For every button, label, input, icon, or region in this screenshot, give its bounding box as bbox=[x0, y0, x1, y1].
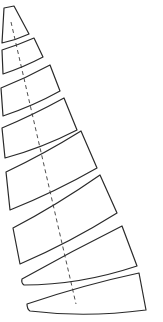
sail-panel-2 bbox=[2, 38, 43, 74]
sail-panel-1 bbox=[2, 6, 29, 43]
center-axis-dashed-line bbox=[11, 22, 76, 304]
sail-panels bbox=[1, 6, 146, 314]
sail-panel-6 bbox=[13, 175, 117, 264]
sail-panel-4 bbox=[2, 98, 77, 158]
sail-panel-diagram bbox=[0, 0, 163, 322]
